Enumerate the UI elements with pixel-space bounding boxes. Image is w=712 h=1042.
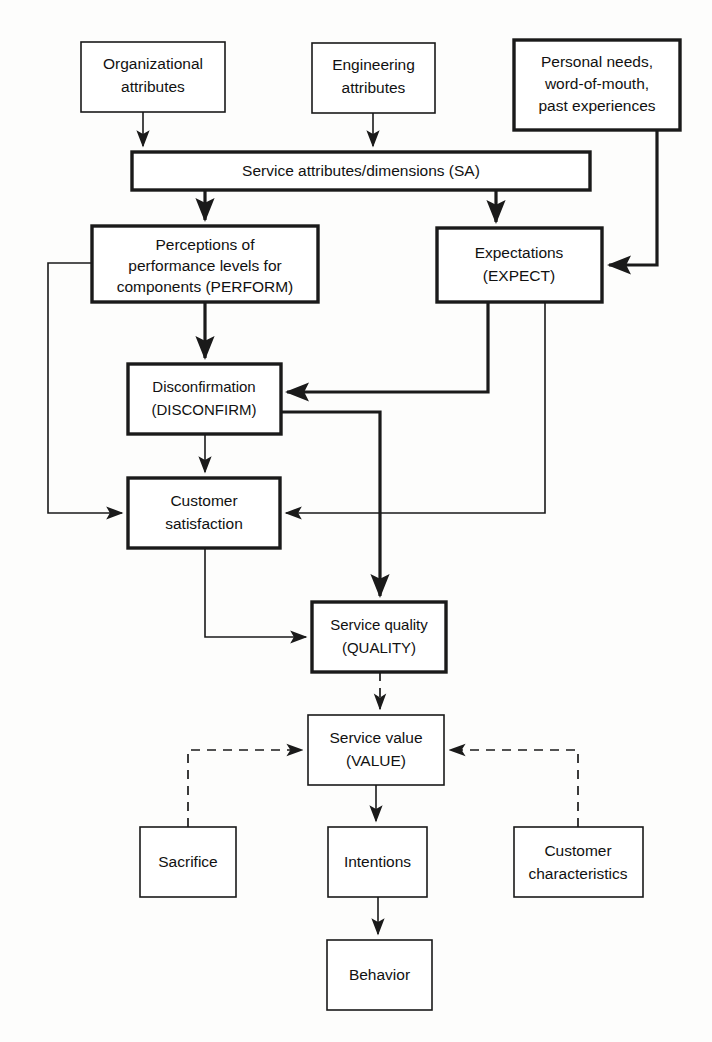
node-expectations-line-2: (EXPECT) — [483, 267, 555, 284]
node-engineering-attributes-line-1: Engineering — [332, 56, 415, 73]
edge-customer-satisfaction-to-quality — [205, 548, 306, 637]
node-customer-satisfaction-line-2: satisfaction — [165, 515, 243, 532]
node-behavior[interactable]: Behavior — [327, 940, 432, 1010]
node-perform-line-2: performance levels for — [128, 257, 281, 274]
node-organizational-attributes[interactable]: Organizational attributes — [81, 42, 225, 112]
node-disconfirm[interactable]: Disconfirmation (DISCONFIRM) — [128, 364, 281, 434]
node-quality-line-2: (QUALITY) — [342, 639, 416, 656]
node-engineering-attributes[interactable]: Engineering attributes — [312, 43, 435, 113]
node-customer-characteristics[interactable]: Customer characteristics — [514, 827, 643, 897]
node-disconfirm-line-2: (DISCONFIRM) — [152, 401, 257, 418]
node-customer-satisfaction[interactable]: Customer satisfaction — [128, 478, 280, 548]
node-intentions-label: Intentions — [344, 853, 411, 870]
node-value[interactable]: Service value (VALUE) — [308, 715, 444, 785]
edge-customer-characteristics-to-value — [450, 750, 578, 827]
node-quality[interactable]: Service quality (QUALITY) — [312, 602, 446, 672]
node-disconfirm-line-1: Disconfirmation — [152, 378, 255, 395]
node-perform[interactable]: Perceptions of performance levels for co… — [92, 226, 318, 302]
node-service-attributes-label: Service attributes/dimensions (SA) — [242, 162, 480, 179]
node-quality-line-1: Service quality — [330, 616, 428, 633]
node-value-line-1: Service value — [329, 729, 422, 746]
node-intentions[interactable]: Intentions — [328, 827, 427, 897]
node-personal-needs[interactable]: Personal needs, word-of-mouth, past expe… — [514, 40, 680, 130]
node-personal-needs-line-3: past experiences — [538, 97, 655, 114]
node-expectations-line-1: Expectations — [475, 244, 564, 261]
node-personal-needs-line-1: Personal needs, — [541, 53, 653, 70]
edge-expectations-to-customer-satisfaction — [286, 302, 545, 513]
node-organizational-attributes-line-1: Organizational — [103, 55, 203, 72]
node-customer-characteristics-line-1: Customer — [544, 842, 611, 859]
node-personal-needs-line-2: word-of-mouth, — [544, 75, 649, 92]
node-organizational-attributes-line-2: attributes — [121, 78, 185, 95]
node-customer-satisfaction-line-1: Customer — [170, 492, 237, 509]
node-perform-line-3: components (PERFORM) — [117, 278, 294, 295]
node-value-line-2: (VALUE) — [346, 752, 406, 769]
edge-disconfirm-to-quality — [281, 412, 380, 596]
node-service-attributes[interactable]: Service attributes/dimensions (SA) — [132, 152, 590, 190]
flowchart-diagram: Organizational attributes Engineering at… — [0, 0, 712, 1042]
node-engineering-attributes-line-2: attributes — [342, 79, 406, 96]
edge-expectations-to-disconfirm — [287, 302, 488, 392]
node-sacrifice-label: Sacrifice — [158, 853, 217, 870]
node-expectations[interactable]: Expectations (EXPECT) — [437, 228, 602, 302]
node-perform-line-1: Perceptions of — [155, 236, 255, 253]
edge-personal-needs-to-expectations — [609, 130, 657, 265]
node-behavior-label: Behavior — [349, 966, 410, 983]
node-customer-characteristics-line-2: characteristics — [528, 865, 627, 882]
edge-sacrifice-to-value — [188, 750, 302, 827]
flowchart-canvas: Organizational attributes Engineering at… — [0, 0, 712, 1042]
node-sacrifice[interactable]: Sacrifice — [140, 827, 236, 897]
